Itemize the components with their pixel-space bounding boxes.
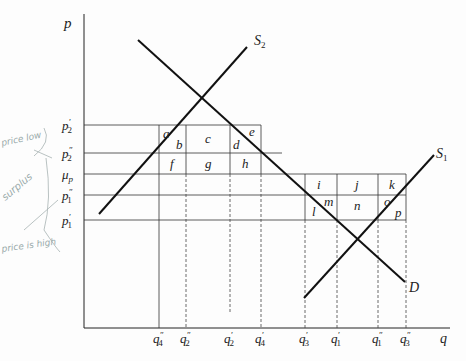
svg-text:μp: μp [61, 167, 74, 184]
svg-text:j: j [353, 177, 359, 192]
s2-label: S2 [254, 33, 266, 50]
svg-text:l: l [312, 204, 316, 219]
note-price-low: price low [0, 130, 43, 149]
svg-text:k: k [389, 177, 395, 192]
svg-text:q′4: q′4 [255, 330, 265, 348]
demand-curve-d [138, 40, 405, 282]
note-surplus: surplus [0, 171, 34, 203]
price-labels: p′2 p″2 μp p″1 p′1 [61, 117, 74, 230]
svg-text:f: f [170, 156, 176, 171]
svg-text:i: i [317, 177, 321, 192]
svg-text:d: d [233, 137, 240, 152]
svg-text:h: h [242, 156, 249, 171]
svg-text:b: b [176, 137, 183, 152]
dashed-drop-lines [186, 174, 406, 328]
svg-text:q′1: q′1 [331, 330, 341, 348]
s1-label: S1 [436, 146, 448, 163]
svg-text:p′2: p′2 [61, 117, 72, 135]
svg-text:m: m [324, 194, 333, 209]
y-axis-label: p [63, 15, 72, 31]
svg-text:q″3: q″3 [400, 330, 411, 348]
supply-demand-diagram: p q S2 S1 D p′2 p″2 μp p″1 p′1 q″4 q″2 q… [0, 0, 466, 361]
svg-text:p″2: p″2 [61, 145, 73, 163]
handwritten-notes: price low surplus price is high [0, 128, 60, 254]
svg-text:e: e [249, 124, 255, 139]
svg-text:q′3: q′3 [299, 330, 309, 348]
svg-text:p″1: p″1 [61, 187, 73, 205]
quantity-labels: q″4 q″2 q′2 q′4 q′3 q′1 q″1 q″3 [153, 330, 411, 348]
svg-text:a: a [163, 126, 170, 141]
d-label: D [408, 280, 419, 295]
svg-text:g: g [205, 156, 212, 171]
svg-text:p: p [394, 205, 402, 220]
svg-text:o: o [384, 194, 391, 209]
svg-text:q″1: q″1 [372, 330, 383, 348]
svg-text:n: n [354, 198, 361, 213]
x-axis-label: q [440, 331, 447, 346]
svg-text:q′2: q′2 [224, 330, 234, 348]
svg-text:q″4: q″4 [153, 330, 164, 348]
svg-text:p′1: p′1 [61, 212, 72, 230]
note-price-high: price is high [0, 236, 57, 254]
svg-text:q″2: q″2 [180, 330, 191, 348]
supply-curve-s1 [304, 155, 434, 298]
svg-text:c: c [205, 131, 211, 146]
